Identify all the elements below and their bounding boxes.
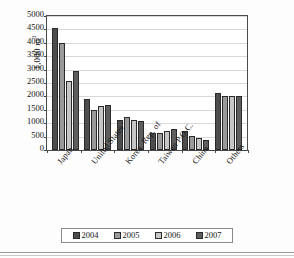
- legend-swatch-icon: [73, 232, 80, 239]
- footer-rule-bottom: [0, 255, 294, 256]
- y-tick-label: 3000: [27, 64, 44, 73]
- legend-item[interactable]: 2007: [196, 231, 222, 240]
- bar: [229, 96, 235, 150]
- legend-swatch-icon: [196, 232, 203, 239]
- legend-swatch-icon: [114, 232, 121, 239]
- legend-label: 2007: [205, 231, 222, 240]
- y-tick-label: 2500: [27, 77, 44, 86]
- y-tick-label: 4500: [27, 23, 44, 32]
- x-axis-category-labels: JapanUnited StatesKorea, Rep. ofTaiwan P…: [46, 152, 248, 218]
- y-tick-label: 500: [31, 131, 44, 140]
- bar-group: [84, 16, 112, 150]
- legend-label: 2005: [123, 231, 140, 240]
- bar: [52, 28, 58, 150]
- bar: [189, 136, 195, 150]
- bar-chart-figure: 1,000 m3 5000450040003500300025002000150…: [0, 0, 294, 258]
- bar: [215, 93, 221, 150]
- bar-group: [215, 16, 243, 150]
- bar: [124, 117, 130, 150]
- legend-item[interactable]: 2005: [114, 231, 140, 240]
- bar: [84, 99, 90, 150]
- y-tick-label: 2000: [27, 90, 44, 99]
- plot-wrapper: 1,000 m3 5000450040003500300025002000150…: [0, 0, 294, 258]
- bar: [91, 110, 97, 150]
- bar: [157, 133, 163, 150]
- bar-group: [51, 16, 79, 150]
- chart-legend: 2004200520062007: [61, 228, 233, 243]
- y-tick-label: 3500: [27, 50, 44, 59]
- legend-item[interactable]: 2006: [155, 231, 181, 240]
- y-tick-label: 5000: [27, 10, 44, 19]
- legend-label: 2006: [164, 231, 181, 240]
- legend-swatch-icon: [155, 232, 162, 239]
- y-tick-label: 4000: [27, 37, 44, 46]
- footer-rule-top: [0, 252, 294, 253]
- x-tick-mark: [248, 150, 249, 153]
- bar: [222, 96, 228, 150]
- legend-item[interactable]: 2004: [73, 231, 99, 240]
- bar: [66, 81, 72, 150]
- y-axis-tick-labels: 5000450040003500300025002000150010005000: [14, 13, 44, 151]
- bar: [73, 71, 79, 150]
- legend-label: 2004: [82, 231, 99, 240]
- y-tick-label: 1500: [27, 104, 44, 113]
- bar: [59, 43, 65, 150]
- y-tick-label: 0: [40, 144, 44, 153]
- y-tick-label: 1000: [27, 117, 44, 126]
